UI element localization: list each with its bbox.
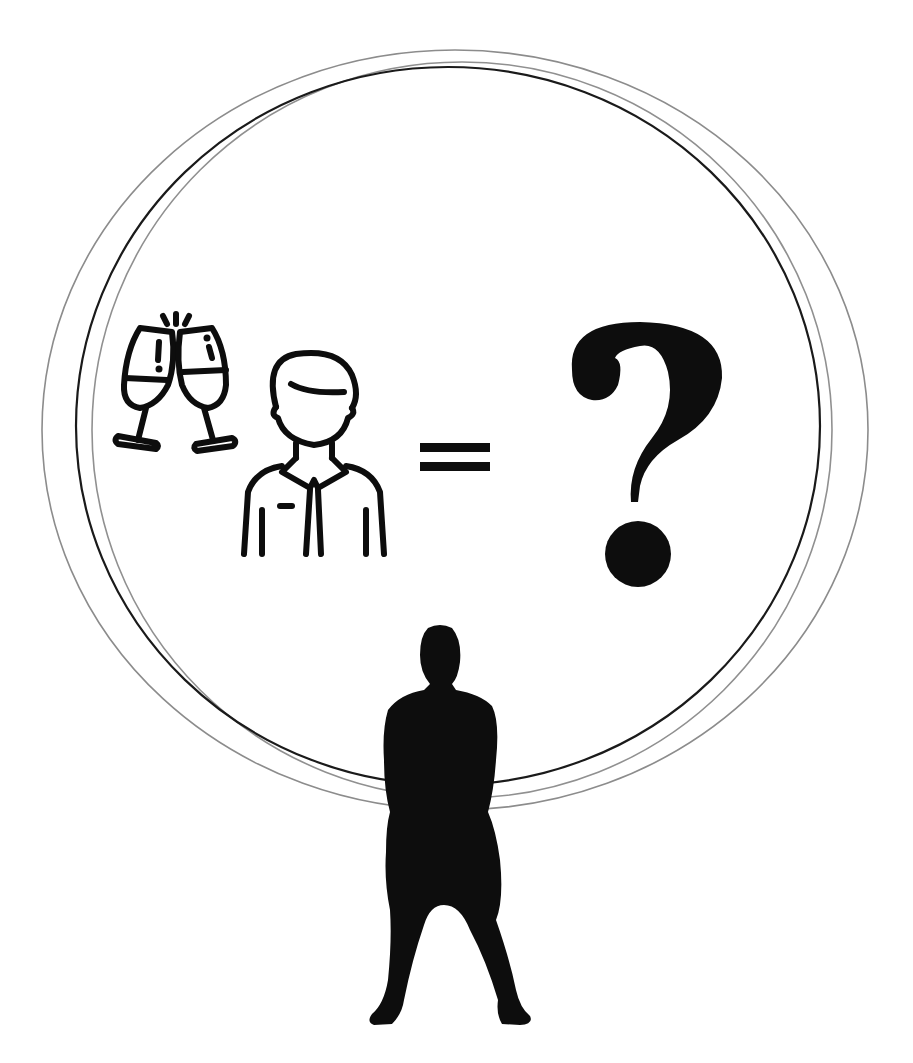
standing-person-silhouette: [0, 0, 913, 1063]
illustration-canvas: = ?: [0, 0, 913, 1063]
